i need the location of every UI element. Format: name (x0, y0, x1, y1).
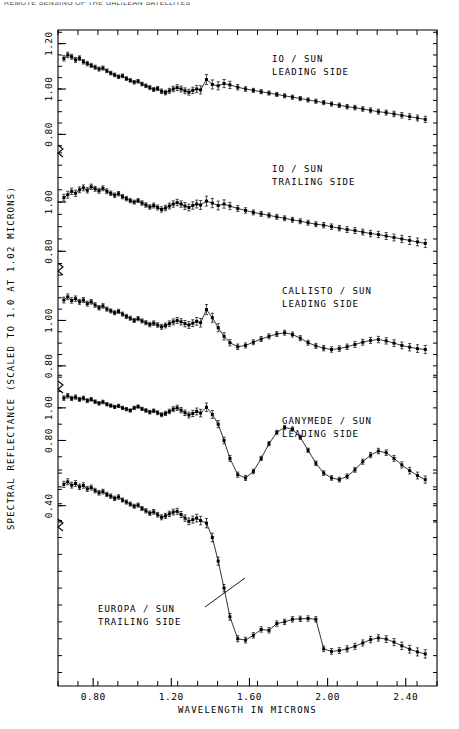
data-point (228, 615, 231, 618)
data-point (86, 62, 89, 65)
data-point (408, 115, 411, 118)
data-point (338, 347, 341, 350)
data-point (228, 205, 231, 208)
data-point (113, 194, 116, 197)
data-point (377, 110, 380, 113)
data-point (86, 189, 89, 192)
data-point (385, 235, 388, 238)
y-tick-label: 0.80 (43, 239, 54, 264)
data-point (66, 480, 69, 483)
data-point (109, 404, 112, 407)
data-point (144, 321, 147, 324)
data-point (78, 57, 81, 60)
data-point (211, 202, 214, 205)
data-point (307, 341, 310, 344)
plot-frame (58, 30, 437, 686)
data-point (187, 91, 190, 94)
data-point (90, 398, 93, 401)
data-point (109, 495, 112, 498)
data-point (252, 470, 255, 473)
data-point (191, 412, 194, 415)
data-point (70, 55, 73, 58)
data-point (275, 622, 278, 625)
data-point (141, 83, 144, 86)
data-point (424, 478, 427, 481)
data-point (260, 457, 263, 460)
data-point (117, 75, 120, 78)
data-point (291, 618, 294, 621)
data-point (338, 478, 341, 481)
data-point (94, 489, 97, 492)
data-point (191, 204, 194, 207)
panel-label-europa-trailing: EUROPA / SUNTRAILING SIDE (98, 604, 181, 627)
data-point (94, 304, 97, 307)
data-point (267, 92, 270, 95)
data-point (252, 634, 255, 637)
data-point (164, 91, 167, 94)
series-io-sun-trailing-side: 0.801.00 (43, 153, 437, 275)
data-point (125, 501, 128, 504)
panel-label-line2: TRAILING SIDE (272, 177, 355, 187)
data-point (86, 487, 89, 490)
data-point (109, 309, 112, 312)
data-point (377, 636, 380, 639)
series-europa-sun-trailing-side (58, 470, 437, 673)
panel-label-ganymede-leading: GANYMEDE / SUNLEADING SIDE (282, 416, 372, 439)
data-point (205, 308, 208, 311)
data-point (129, 199, 132, 202)
data-point (393, 641, 396, 644)
data-point (369, 109, 372, 112)
axis-break-glyph (58, 263, 63, 275)
data-point (283, 217, 286, 220)
data-point (172, 408, 175, 411)
data-point (346, 647, 349, 650)
data-point (187, 520, 190, 523)
data-point (66, 53, 69, 56)
data-point (223, 203, 226, 206)
data-point (291, 333, 294, 336)
data-point (129, 503, 132, 506)
data-point (133, 81, 136, 84)
panel-label-io-trailing: IO / SUNTRAILING SIDE (272, 164, 355, 187)
data-point (283, 94, 286, 97)
data-point (168, 205, 171, 208)
data-point (361, 341, 364, 344)
data-point (129, 409, 132, 412)
data-point (82, 299, 85, 302)
data-point (195, 320, 198, 323)
data-point (62, 299, 65, 302)
panel-label-line2: LEADING SIDE (282, 299, 359, 309)
data-point (223, 335, 226, 338)
data-point (156, 324, 159, 327)
data-point (74, 58, 77, 61)
data-point (187, 206, 190, 209)
spectral-reflectance-figure: 0.801.201.602.002.40WAVELENGTH IN MICRON… (0, 0, 459, 729)
data-point (82, 186, 85, 189)
data-point (228, 457, 231, 460)
data-point (133, 201, 136, 204)
data-point (160, 516, 163, 519)
data-point (314, 462, 317, 465)
data-point (377, 450, 380, 453)
data-point (385, 339, 388, 342)
data-point (172, 320, 175, 323)
data-point (244, 639, 247, 642)
data-point (82, 484, 85, 487)
data-point (322, 647, 325, 650)
data-point (199, 412, 202, 415)
data-point (183, 411, 186, 414)
y-tick-label: 1.20 (43, 31, 54, 56)
data-point (66, 295, 69, 298)
data-point (98, 402, 101, 405)
data-point (148, 206, 151, 209)
data-point (141, 202, 144, 205)
data-point (176, 201, 179, 204)
data-point (74, 192, 77, 195)
data-point (361, 107, 364, 110)
data-point (66, 193, 69, 196)
data-point (205, 78, 208, 81)
data-point (346, 345, 349, 348)
data-point (137, 317, 140, 320)
data-point (98, 306, 101, 309)
data-point (275, 215, 278, 218)
